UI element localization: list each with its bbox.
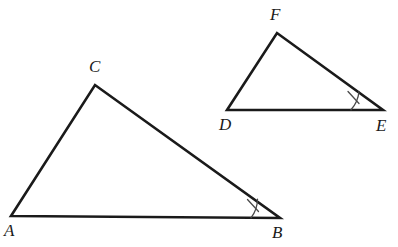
triangle-abc: [11, 85, 280, 218]
vertex-label-d: D: [219, 116, 231, 133]
angle-mark-arc-e: [351, 92, 359, 110]
vertex-label-e: E: [376, 117, 386, 134]
triangle-def: [227, 33, 383, 110]
geometry-diagram: A B C D E F: [0, 0, 398, 247]
vertex-label-a: A: [4, 222, 14, 239]
vertex-label-b: B: [272, 224, 282, 241]
triangle-abc-outline: [11, 85, 280, 218]
geometry-canvas: [0, 0, 398, 247]
triangle-def-outline: [227, 33, 383, 110]
vertex-label-f: F: [270, 6, 280, 23]
vertex-label-c: C: [89, 58, 100, 75]
